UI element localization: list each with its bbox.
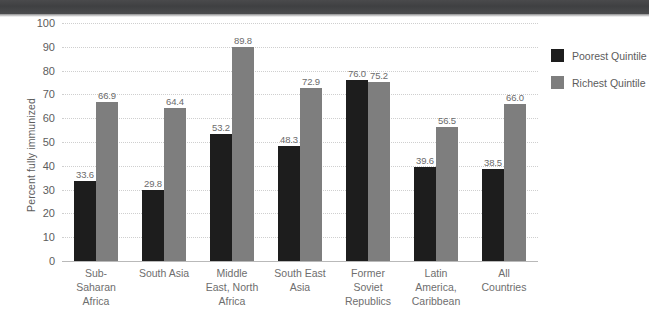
bar-column: 56.5 [436,23,458,261]
y-axis-tick-label: 0 [49,255,55,267]
bar-column: 72.9 [300,23,322,261]
x-axis-category-label: AllCountries [470,266,538,308]
bar [368,82,390,261]
bar-chart: Percent fully immunized 1009080706050403… [0,17,649,322]
y-axis-tick-label: 80 [43,65,55,77]
legend-label: Poorest Quintile [572,50,647,62]
bar-group: 76.075.2 [334,23,402,261]
chart-legend: Poorest QuintileRichest Quintile [551,49,649,103]
x-axis-category-label: South Asia [130,266,198,308]
bar [414,167,436,261]
y-axis-tick-label: 40 [43,160,55,172]
y-axis-tick-label: 50 [43,136,55,148]
bar-groups: 33.666.929.864.453.289.848.372.976.075.2… [62,23,538,261]
x-axis-category-label: LatinAmerica,Caribbean [402,266,470,308]
bar [482,169,504,261]
bar [142,190,164,261]
bar [210,134,232,261]
bar-column: 75.2 [368,23,390,261]
bar [96,102,118,261]
legend-swatch-icon [551,49,564,62]
bar [278,146,300,261]
bar-value-label: 75.2 [370,70,388,81]
bar [300,88,322,262]
bar-value-label: 48.3 [280,134,298,145]
y-axis-tick-label: 70 [43,88,55,100]
bar-column: 89.8 [232,23,254,261]
bar-column: 48.3 [278,23,300,261]
bar-group: 38.566.0 [470,23,538,261]
page-top-band [0,0,649,14]
bar-value-label: 89.8 [234,35,252,46]
bar-group: 29.864.4 [130,23,198,261]
bar-column: 39.6 [414,23,436,261]
bar-column: 33.6 [74,23,96,261]
x-axis-labels: Sub-SaharanAfricaSouth AsiaMiddleEast, N… [62,266,538,308]
bar-value-label: 33.6 [76,169,94,180]
bar-value-label: 39.6 [416,155,434,166]
y-axis-tick-label: 90 [43,41,55,53]
y-axis-tick-label: 20 [43,207,55,219]
y-axis-title: Percent fully immunized [25,75,37,235]
bar-value-label: 66.9 [98,90,116,101]
bar-value-label: 76.0 [348,68,366,79]
bar-value-label: 72.9 [302,76,320,87]
bar-group: 39.656.5 [402,23,470,261]
bar-group: 48.372.9 [266,23,334,261]
legend-item[interactable]: Richest Quintile [551,76,649,89]
bar-column: 66.0 [504,23,526,261]
bar-value-label: 64.4 [166,96,184,107]
bar-value-label: 53.2 [212,122,230,133]
bar-column: 64.4 [164,23,186,261]
y-axis-tick-label: 30 [43,184,55,196]
x-axis-baseline [62,261,538,262]
bar [232,47,254,261]
bar-column: 38.5 [482,23,504,261]
chart-page: Percent fully immunized 1009080706050403… [0,0,649,322]
x-axis-category-label: Sub-SaharanAfrica [62,266,130,308]
bar-group: 53.289.8 [198,23,266,261]
legend-item[interactable]: Poorest Quintile [551,49,649,62]
bar [164,108,186,261]
y-axis-tick-label: 10 [43,231,55,243]
bar-value-label: 29.8 [144,178,162,189]
bar [346,80,368,261]
y-axis-tick-label: 60 [43,112,55,124]
x-axis-category-label: South EastAsia [266,266,334,308]
bar-column: 29.8 [142,23,164,261]
bar [436,127,458,261]
bar [504,104,526,261]
legend-swatch-icon [551,76,564,89]
bar-value-label: 66.0 [506,92,524,103]
bar-value-label: 56.5 [438,115,456,126]
bar-column: 53.2 [210,23,232,261]
x-axis-category-label: MiddleEast, NorthAfrica [198,266,266,308]
bar-group: 33.666.9 [62,23,130,261]
bar-value-label: 38.5 [484,157,502,168]
y-axis-tick-label: 100 [37,17,55,29]
legend-label: Richest Quintile [572,77,646,89]
bar-column: 76.0 [346,23,368,261]
bar [74,181,96,261]
x-axis-category-label: FormerSovietRepublics [334,266,402,308]
bar-column: 66.9 [96,23,118,261]
